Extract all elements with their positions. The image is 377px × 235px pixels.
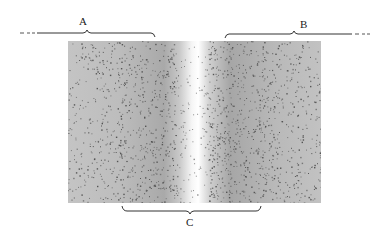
speckle-dot (240, 114, 241, 115)
speckle-dot (224, 153, 225, 154)
speckle-dot (240, 98, 241, 99)
speckle-dot (228, 135, 229, 136)
speckle-dot (230, 137, 231, 138)
speckle-dot (84, 59, 85, 60)
speckle-dot (317, 135, 318, 136)
speckle-dot (274, 97, 275, 98)
speckle-dot (170, 58, 171, 59)
speckle-dot (297, 90, 298, 91)
speckle-dot (163, 70, 164, 71)
speckle-dot (174, 64, 175, 65)
speckle-dot (231, 97, 232, 98)
speckle-dot (145, 183, 146, 184)
speckle-dot (110, 169, 111, 170)
speckle-dot (91, 44, 92, 45)
speckle-dot (117, 161, 118, 162)
speckle-dot (143, 97, 144, 98)
speckle-dot (87, 128, 88, 129)
speckle-dot (144, 91, 145, 92)
speckle-dot (319, 181, 320, 182)
speckle-dot (226, 77, 227, 78)
speckle-dot (76, 113, 77, 114)
speckle-dot (243, 51, 244, 52)
speckle-dot (204, 86, 205, 87)
speckle-dot (176, 193, 177, 194)
speckle-dot (202, 128, 203, 129)
speckle-dot (140, 96, 141, 97)
speckle-dot (176, 185, 177, 186)
speckle-dot (223, 100, 224, 101)
speckle-dot (181, 67, 182, 68)
speckle-dot (162, 182, 163, 183)
speckle-dot (119, 43, 120, 44)
speckle-dot (145, 147, 146, 148)
speckle-dot (245, 126, 246, 127)
speckle-dot (107, 89, 108, 90)
speckle-dot (76, 139, 77, 140)
speckle-dot (144, 157, 145, 158)
speckle-dot (209, 201, 210, 202)
speckle-dot (141, 171, 142, 172)
speckle-dot (236, 162, 237, 163)
speckle-dot (265, 178, 266, 179)
speckle-dot (219, 99, 220, 100)
speckle-dot (146, 134, 147, 135)
speckle-dot (266, 182, 267, 183)
label-c: C (186, 216, 193, 228)
speckle-dot (85, 181, 86, 182)
speckle-dot (250, 50, 251, 51)
speckle-dot (107, 198, 108, 199)
speckle-dot (130, 51, 131, 52)
speckle-dot (122, 184, 123, 185)
speckle-dot (70, 70, 71, 71)
speckle-dot (107, 122, 108, 123)
speckle-dot (131, 59, 132, 60)
speckle-dot (168, 56, 169, 57)
speckle-dot (240, 44, 241, 45)
speckle-dot (128, 131, 129, 132)
speckle-dot (280, 168, 281, 169)
speckle-dot (180, 154, 181, 155)
speckle-dot (319, 145, 320, 146)
speckle-dot (142, 71, 143, 72)
speckle-dot (277, 198, 278, 199)
speckle-dot (310, 148, 311, 149)
speckle-dot (107, 136, 108, 137)
speckle-dot (283, 107, 284, 108)
speckle-dot (271, 125, 272, 126)
speckle-dot (138, 189, 139, 190)
speckle-dot (265, 140, 266, 141)
speckle-dot (181, 127, 182, 128)
speckle-dot (96, 190, 97, 191)
speckle-dot (272, 53, 273, 54)
speckle-dot (304, 87, 305, 88)
speckle-dot (79, 175, 80, 176)
speckle-dot (94, 158, 95, 159)
speckle-dot (236, 184, 237, 185)
speckle-dot (153, 150, 154, 151)
speckle-dot (177, 191, 178, 192)
speckle-dot (215, 148, 216, 149)
speckle-dot (306, 125, 307, 126)
speckle-dot (152, 152, 153, 153)
speckle-dot (136, 106, 137, 107)
speckle-dot (259, 149, 260, 150)
speckle-dot (141, 111, 142, 112)
speckle-dot (229, 143, 230, 144)
speckle-dot (298, 169, 299, 170)
speckle-dot (301, 177, 302, 178)
speckle-dot (214, 195, 215, 196)
speckle-dot (269, 169, 270, 170)
speckle-dot (182, 105, 183, 106)
speckle-dot (220, 113, 221, 114)
speckle-dot (243, 65, 244, 66)
speckle-dot (115, 196, 116, 197)
speckle-dot (231, 104, 232, 105)
speckle-dot (233, 119, 234, 120)
speckle-dot (156, 149, 157, 150)
speckle-dot (110, 62, 111, 63)
speckle-dot (278, 93, 279, 94)
speckle-dot (95, 99, 96, 100)
speckle-dot (167, 71, 168, 72)
speckle-dot (138, 95, 139, 96)
